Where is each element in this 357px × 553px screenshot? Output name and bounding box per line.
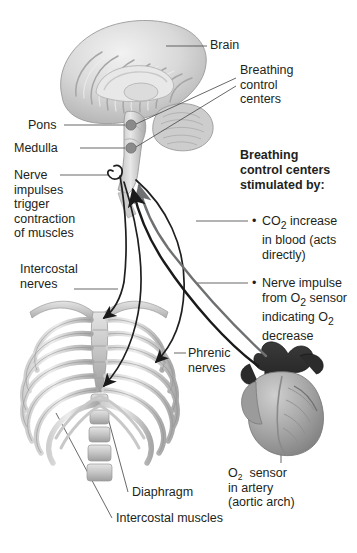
o2-sensor-line2: in artery — [228, 481, 273, 495]
ni-line1: Nerve impulse — [262, 276, 342, 290]
panel-heading-line2: control centers — [240, 163, 330, 177]
ni-line3-subscript: 2 — [328, 315, 334, 326]
o2-sensor-line3: (aortic arch) — [228, 495, 295, 509]
bullet-nerve-impulse-o2: • Nerve impulsefrom O2 sensorindicating … — [252, 276, 354, 343]
label-intercostal-nerves-text: Intercostal nerves — [20, 262, 78, 291]
ni-line3-pre: indicating O — [262, 310, 328, 324]
label-pons: Pons — [28, 118, 57, 133]
bullet-nerve-impulse-o2-text: Nerve impulsefrom O2 sensorindicating O2… — [262, 276, 354, 343]
breathing-control-diagram: Brain Breathing control centers Pons Med… — [0, 0, 357, 553]
o2-sensor-post: sensor — [242, 466, 286, 480]
co2-pre: CO — [262, 214, 281, 228]
label-diaphragm: Diaphragm — [132, 485, 193, 500]
label-nerve-impulses-text: Nerve impulses trigger contraction of mu… — [14, 168, 75, 240]
label-breathing-control-centers: Breathing control centers — [240, 63, 294, 107]
label-o2-sensor: O2 sensorin artery(aortic arch) — [228, 466, 295, 510]
bullet-co2-increase: • CO2 increasein blood (acts directly) — [252, 214, 352, 262]
panel-heading-line1: Breathing — [240, 148, 298, 162]
o2-sensor-pre: O — [228, 466, 238, 480]
rib-cage-illustration — [23, 301, 178, 481]
label-breathing-control-centers-text: Breathing control centers — [240, 63, 294, 106]
panel-heading: Breathingcontrol centersstimulated by: — [240, 148, 330, 193]
bullet-glyph-icon: • — [252, 276, 256, 291]
o2-sensor-subscript: 2 — [238, 472, 243, 482]
pons-marker-icon — [126, 120, 136, 130]
medulla-marker-icon — [126, 143, 136, 153]
label-phrenic-nerves-text: Phrenic nerves — [188, 346, 230, 375]
ni-line4: decrease — [262, 329, 313, 343]
label-intercostal-muscles: Intercostal muscles — [116, 511, 223, 526]
label-brain: Brain — [210, 38, 239, 53]
arrow-o2-sensor-impulse — [133, 190, 258, 366]
label-intercostal-nerves: Intercostal nerves — [20, 262, 78, 291]
label-nerve-impulses: Nerve impulses trigger contraction of mu… — [14, 168, 75, 241]
arrow-co2-increase — [139, 186, 266, 356]
co2-post: increase — [287, 214, 338, 228]
bullet-glyph-icon: • — [252, 214, 256, 229]
nerve-pathway-right — [136, 180, 184, 362]
co2-rest: in blood (acts directly) — [262, 233, 336, 262]
ni-line2-post: sensor — [306, 291, 347, 305]
bullet-co2-increase-text: CO2 increasein blood (acts directly) — [262, 214, 352, 262]
brain-illustration — [61, 20, 213, 218]
label-medulla: Medulla — [14, 141, 58, 156]
label-phrenic-nerves: Phrenic nerves — [188, 346, 230, 375]
ni-line2-pre: from O — [262, 291, 300, 305]
panel-heading-line3: stimulated by: — [240, 178, 325, 192]
heart-illustration — [241, 342, 323, 456]
